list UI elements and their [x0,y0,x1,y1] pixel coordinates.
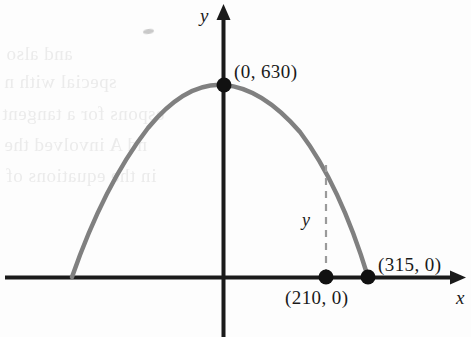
x-axis-arrowhead [450,271,466,285]
graph-canvas [0,0,471,337]
vertex-point-dot [217,78,232,93]
x-intercept-right-label: (315, 0) [378,255,441,274]
height-variable-label: y [302,211,310,229]
x-axis-label: x [456,288,464,307]
y-axis-arrowhead [217,4,231,20]
y-axis [217,4,231,337]
vertex-label: (0, 630) [234,62,297,81]
parabola-figure: and also special with n espons for a tan… [0,0,471,337]
x-intercept-right-dot [361,270,376,285]
y-axis-label: y [200,6,208,25]
x-point-label: (210, 0) [285,288,348,307]
x-point-dot [319,270,334,285]
parabola-curve [72,85,368,277]
